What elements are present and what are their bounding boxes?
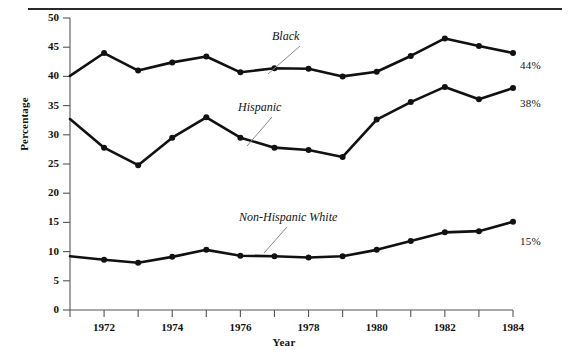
data-point [306,254,312,260]
data-point [101,50,107,56]
end-value-label-non-hispanic-white: 15% [520,236,541,247]
data-point [271,253,277,259]
data-point [306,147,312,153]
data-point [510,85,516,91]
data-point [510,219,516,225]
x-tick-label: 1972 [74,322,134,333]
series-label-black: Black [272,30,299,42]
data-point [135,68,141,74]
data-point [169,254,175,260]
data-point [237,135,243,141]
y-tick-label: 15 [25,216,59,227]
data-point [442,84,448,90]
x-tick-label: 1984 [483,322,543,333]
data-point [135,260,141,266]
annotation-leader-line-2 [264,227,287,253]
data-point [237,253,243,259]
end-value-label-hispanic: 38% [520,98,541,109]
y-tick-label: 40 [25,70,59,81]
series-line-2 [70,222,513,263]
data-point [510,50,516,56]
y-tick-label: 50 [25,12,59,23]
data-point [271,145,277,151]
data-point [340,73,346,79]
y-tick-label: 30 [25,129,59,140]
data-point [374,247,380,253]
data-point [408,53,414,59]
end-value-label-black: 44% [520,60,541,71]
data-point [408,238,414,244]
x-tick-label: 1976 [210,322,270,333]
data-point [340,154,346,160]
data-point [476,43,482,49]
data-point [408,99,414,105]
data-point [169,59,175,65]
data-point [306,66,312,72]
data-point [237,69,243,75]
series-label-hispanic: Hispanic [238,101,281,113]
y-tick-label: 0 [25,304,59,315]
plot-area [0,0,568,364]
chart-figure: Percentage Year 504540353025201510501972… [0,0,568,364]
series-line-1 [70,87,513,165]
y-tick-label: 20 [25,187,59,198]
y-tick-label: 35 [25,100,59,111]
x-tick-label: 1980 [347,322,407,333]
y-tick-label: 5 [25,275,59,286]
x-tick-label: 1982 [415,322,475,333]
data-point [135,162,141,168]
data-point [203,247,209,253]
data-point [169,135,175,141]
data-point [476,228,482,234]
data-point [101,145,107,151]
data-point [340,253,346,259]
annotation-leader-line-1 [247,117,272,146]
y-tick-label: 10 [25,246,59,257]
data-point [374,69,380,75]
y-tick-label: 25 [25,158,59,169]
data-point [203,54,209,60]
y-tick-label: 45 [25,41,59,52]
data-point [101,257,107,263]
data-point [203,114,209,120]
x-tick-label: 1978 [279,322,339,333]
data-point [476,96,482,102]
series-label-non-hispanic-white: Non-Hispanic White [239,211,337,223]
data-point [374,117,380,123]
data-point [442,229,448,235]
x-tick-label: 1974 [142,322,202,333]
data-point [442,35,448,41]
